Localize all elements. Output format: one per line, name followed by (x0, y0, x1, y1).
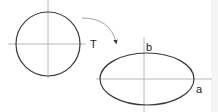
transform-arrow-icon (82, 18, 116, 42)
transform-label: T (90, 38, 97, 50)
semi-major-axis-label: a (196, 83, 203, 95)
semi-minor-axis-label: b (146, 41, 152, 53)
transformation-diagram: T b a (0, 0, 218, 112)
